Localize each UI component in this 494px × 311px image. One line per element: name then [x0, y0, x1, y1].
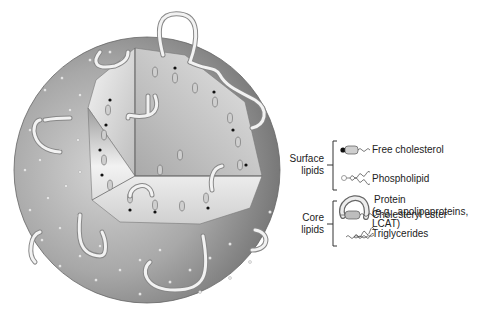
core-label: Core — [284, 212, 324, 224]
phospholipid-label: Phospholipid — [372, 173, 429, 185]
lipids-label: lipids — [284, 165, 324, 177]
lipids-label: lipids — [284, 224, 324, 236]
triglycerides-label: Triglycerides — [372, 228, 428, 240]
phospholipid-icon — [342, 171, 371, 184]
surface-label: Surface — [284, 153, 324, 165]
protein-label-line1: Protein — [374, 194, 468, 206]
legend-brackets — [327, 141, 337, 246]
free-cholesterol-icon — [340, 146, 370, 154]
free-cholesterol-label: Free cholesterol — [372, 144, 444, 156]
cholesteryl-ester-label: Cholesteryl ester — [372, 209, 447, 221]
triglycerides-icon — [346, 227, 374, 238]
lipoprotein-diagram: Surface lipids Core lipids Free choleste… — [0, 0, 494, 311]
surface-lipids-label: Surface lipids — [284, 153, 324, 177]
core-lipids-label: Core lipids — [284, 212, 324, 236]
